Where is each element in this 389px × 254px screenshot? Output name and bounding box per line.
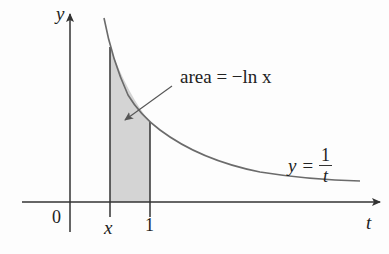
one-tick-label: 1: [145, 216, 154, 234]
curve-fraction: 1 t: [319, 146, 332, 185]
area-under-curve-figure: y t 0 x 1 area = −ln x y = 1 t: [0, 0, 389, 254]
area-annotation: area = −ln x: [180, 67, 272, 86]
curve-equation-label: y = 1 t: [288, 146, 332, 185]
origin-label: 0: [52, 208, 61, 226]
fraction-denominator: t: [323, 166, 328, 185]
fraction-numerator: 1: [319, 146, 332, 166]
y-axis-label: y: [56, 4, 64, 23]
shaded-area-region: [110, 47, 150, 202]
x-tick-label: x: [104, 218, 112, 237]
t-axis-label: t: [366, 213, 371, 232]
curve-equation-lhs: y =: [288, 156, 314, 175]
